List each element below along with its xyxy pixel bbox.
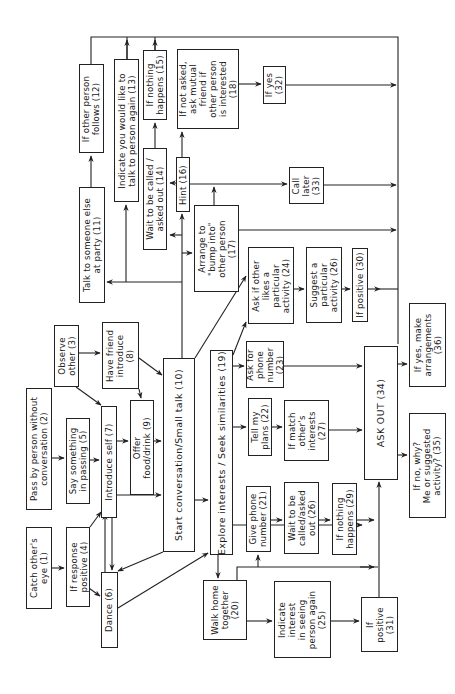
node-nothing-happens-29: If nothing happens (29) [332, 483, 357, 555]
node-ask-mutual-friend: If not asked, ask mutual friend if other… [177, 49, 239, 129]
node-match-interests: If match other's interests (27) [284, 400, 329, 461]
node-dance: Dance (6) [101, 572, 118, 648]
node-observe-other: Observe other (3) [54, 325, 79, 387]
node-response-positive: If response positive (4) [66, 527, 90, 607]
node-offer-food: Offer food/drink (9) [130, 400, 154, 495]
node-other-follows: If other person follows (12) [79, 64, 104, 153]
node-indicate-interest: Indicate interest in seeing person again… [274, 581, 331, 658]
node-introduce-self: Introduce self (7) [101, 406, 117, 518]
node-ask-phone: Ask for phone number (23) [246, 341, 284, 388]
node-talk-someone-else: Talk to someone else at party (11) [79, 187, 105, 303]
node-nothing-happens-15: If nothing happens (15) [143, 50, 167, 120]
node-start-conversation: Start conversation/Small talk (10) [163, 358, 195, 552]
node-ask-activity: Ask if other likes a particular activity… [248, 247, 294, 324]
node-catch-eye: Catch other's eye (1) [26, 527, 52, 609]
node-call-later: Call later (33) [289, 167, 324, 204]
node-suggest-activity: Suggest a particular activity (26) [306, 247, 342, 323]
node-walk-home: Walk home together (20) [203, 580, 247, 640]
node-if-yes-32: If yes (32) [263, 66, 286, 104]
node-bump-into: Arrange to "bump into" other person (17) [194, 205, 239, 292]
node-indicate-talk-again: Indicate you would like to talk to perso… [114, 59, 139, 202]
node-friend-introduce: Have friend introduce (8) [102, 322, 139, 389]
node-if-positive-31: If positive (31) [361, 597, 398, 652]
node-hint: Hint (16) [176, 157, 190, 212]
node-wait-called-26: Wait to be called/asked out (26) [284, 482, 319, 554]
node-explore-interests: Explore interests / Seek similarities (1… [210, 350, 233, 555]
node-wait-called-14: Wait to be called / asked out (14) [143, 148, 167, 250]
node-give-phone: Give phone number (21) [246, 486, 271, 552]
node-pass-by: Pass by person without conversation (2) [26, 388, 52, 510]
node-if-yes-arrangements: If yes, make arrangements (36) [409, 303, 446, 387]
node-tell-plans: Tell my plans (22) [248, 398, 272, 456]
node-ask-out: ASK OUT (34) [364, 346, 398, 480]
node-if-no-why: If no, why? Me or suggested activity? (3… [409, 413, 446, 518]
flowchart-canvas: Catch other's eye (1) Pass by person wit… [0, 0, 455, 694]
node-if-positive-30: If positive (30) [352, 248, 368, 322]
node-say-something: Say something in passing (5) [66, 418, 90, 504]
